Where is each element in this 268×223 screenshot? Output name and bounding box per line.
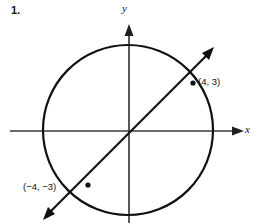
- point-label-a: (4, 3): [198, 76, 220, 87]
- figure-container: 1. y x (4, 3) (−4, −3): [0, 0, 268, 223]
- intersection-point-b-marker: [85, 182, 90, 187]
- x-axis-arrowhead-icon: [232, 127, 244, 136]
- x-axis-label: x: [245, 123, 250, 135]
- circle-curve: [43, 45, 213, 215]
- intersection-point-a-marker: [190, 80, 195, 85]
- y-axis-label: y: [122, 2, 127, 14]
- y-axis-arrowhead-icon: [125, 24, 134, 36]
- y-axis: [125, 24, 134, 223]
- point-label-b: (−4, −3): [23, 181, 56, 192]
